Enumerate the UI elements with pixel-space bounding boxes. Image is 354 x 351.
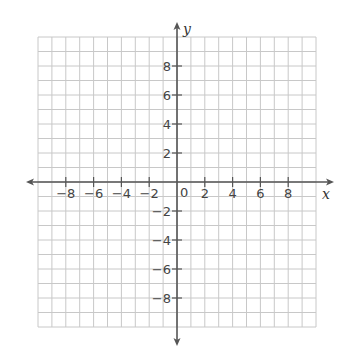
x-tick-label: −8 bbox=[56, 186, 75, 201]
x-axis-label: x bbox=[322, 186, 330, 202]
x-tick-label: −2 bbox=[140, 186, 159, 201]
x-tick-label: −6 bbox=[84, 186, 103, 201]
y-tick-label: 8 bbox=[163, 59, 171, 74]
x-tick-label: 8 bbox=[284, 186, 292, 201]
y-tick-label: 2 bbox=[163, 146, 171, 161]
y-tick-label: −4 bbox=[152, 233, 171, 248]
x-tick-label: 2 bbox=[201, 186, 209, 201]
y-axis-label: y bbox=[182, 21, 192, 37]
y-tick-label: −2 bbox=[152, 204, 171, 219]
y-tick-label: 6 bbox=[163, 88, 171, 103]
y-tick-label: −8 bbox=[152, 291, 171, 306]
origin-label: 0 bbox=[180, 185, 188, 200]
coordinate-plane: −8−6−4−224688642−2−4−6−8 x y 0 bbox=[0, 0, 354, 351]
x-tick-label: −4 bbox=[112, 186, 131, 201]
x-tick-label: 4 bbox=[228, 186, 236, 201]
x-tick-label: 6 bbox=[256, 186, 264, 201]
y-tick-label: −6 bbox=[152, 262, 171, 277]
y-tick-label: 4 bbox=[163, 117, 171, 132]
